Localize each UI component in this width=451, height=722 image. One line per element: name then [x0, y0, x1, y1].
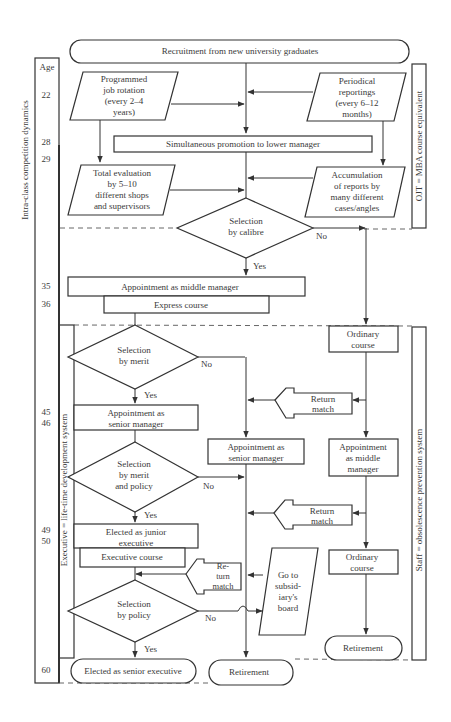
svg-text:years): years) — [113, 107, 135, 117]
svg-text:subsid-: subsid- — [275, 581, 301, 591]
svg-text:manager: manager — [348, 464, 379, 474]
return-match-2-node: Return match — [274, 500, 352, 529]
staff-band: Staff = obsolescence prevention system — [412, 327, 426, 660]
svg-text:Yes: Yes — [144, 644, 158, 654]
svg-text:No: No — [201, 359, 212, 369]
svg-text:Elected as senior executive: Elected as senior executive — [84, 666, 182, 676]
svg-text:Selection: Selection — [117, 599, 151, 609]
svg-text:cases/angles: cases/angles — [335, 203, 380, 213]
elected-senior-node: Elected as senior executive — [71, 659, 196, 683]
no-label: No — [316, 231, 327, 241]
svg-text:match: match — [311, 516, 333, 526]
svg-text:Yes: Yes — [144, 510, 158, 520]
svg-text:by merit: by merit — [119, 356, 150, 366]
svg-text:Recruitment from new universit: Recruitment from new university graduate… — [162, 46, 319, 56]
svg-text:Retirement: Retirement — [229, 667, 269, 677]
intra-class-competition-label: Intra-class competition dynamics — [20, 100, 30, 220]
staff-label: Staff = obsolescence prevention system — [414, 429, 424, 571]
svg-text:job rotation: job rotation — [102, 85, 145, 95]
svg-text:by calibre: by calibre — [228, 227, 264, 237]
svg-text:reportings: reportings — [339, 87, 376, 97]
svg-text:and policy: and policy — [115, 481, 153, 491]
svg-text:of reports by: of reports by — [334, 181, 380, 191]
svg-text:turn: turn — [216, 571, 230, 581]
age-46: 46 — [42, 418, 52, 428]
appointment-middle-manager-node: Appointment as middle manager — [68, 277, 305, 296]
svg-text:Selection: Selection — [117, 345, 151, 355]
svg-text:senior manager: senior manager — [108, 419, 163, 429]
svg-text:many different: many different — [330, 192, 384, 202]
recruitment-node: Recruitment from new university graduate… — [70, 40, 409, 63]
ojt-band: OJT = MBA course equivalent — [412, 64, 426, 228]
executive-course-node: Executive course — [80, 548, 185, 567]
age-49: 49 — [42, 525, 52, 535]
age-header: Age — [40, 62, 55, 72]
ordinary-course-2-node: Ordinary course — [329, 550, 398, 574]
periodical-reportings-node: Periodical reportings (every 6–12 months… — [307, 73, 406, 121]
svg-text:Appointment as middle manager: Appointment as middle manager — [121, 282, 239, 292]
total-evaluation-node: Total evaluation by 5–10 different shops… — [68, 165, 175, 215]
appointment-middle-right-node: Appointment as middle manager — [329, 439, 398, 476]
svg-text:Ordinary: Ordinary — [346, 552, 379, 562]
svg-text:Appointment as: Appointment as — [227, 442, 285, 452]
svg-text:months): months) — [342, 109, 372, 119]
selection-calibre-decision: Selection by calibre — [177, 198, 313, 258]
svg-text:iary's: iary's — [278, 592, 298, 602]
career-flowchart: Age 22 28 29 35 36 45 46 49 50 60 Intra-… — [0, 0, 451, 722]
svg-text:executive: executive — [119, 538, 153, 548]
svg-text:as middle: as middle — [346, 453, 381, 463]
executive-band: Executive = life-time development system — [59, 145, 74, 683]
subsidiary-board-node: Go to subsid- iary's board — [259, 548, 318, 635]
svg-text:Return: Return — [311, 394, 336, 404]
svg-text:Return: Return — [310, 506, 335, 516]
age-35: 35 — [42, 281, 52, 291]
svg-text:(every 6–12: (every 6–12 — [335, 98, 378, 108]
svg-text:and supervisors: and supervisors — [94, 201, 151, 211]
selection-policy-decision: Selection by policy — [68, 580, 198, 642]
age-50: 50 — [42, 536, 52, 546]
simultaneous-promotion-node: Simultaneous promotion to lower manager — [114, 136, 372, 152]
svg-text:by merit: by merit — [119, 470, 150, 480]
ojt-label: OJT = MBA course equivalent — [414, 90, 424, 201]
age-22: 22 — [42, 90, 51, 100]
svg-text:match: match — [213, 581, 235, 591]
express-course-node: Express course — [104, 296, 269, 313]
return-match-3-node: Re- turn match — [186, 559, 241, 594]
retirement-right-node: Retirement — [325, 636, 402, 660]
age-column: Age 22 28 29 35 36 45 46 49 50 60 — [35, 58, 59, 683]
age-45: 45 — [42, 407, 52, 417]
svg-text:Simultaneous promotion to lowe: Simultaneous promotion to lower manager — [166, 139, 320, 149]
svg-text:Re-: Re- — [217, 561, 229, 571]
svg-text:Total evaluation: Total evaluation — [93, 168, 152, 178]
accumulation-node: Accumulation of reports by many differen… — [305, 167, 405, 217]
appointment-senior-left-node: Appointment as senior manager — [74, 405, 198, 430]
svg-text:Programmed: Programmed — [101, 74, 148, 84]
svg-text:Appointment as: Appointment as — [107, 408, 165, 418]
svg-text:Selection: Selection — [117, 459, 151, 469]
svg-text:by 5–10: by 5–10 — [107, 179, 137, 189]
age-36: 36 — [42, 299, 52, 309]
svg-text:No: No — [205, 613, 216, 623]
age-60: 60 — [42, 665, 52, 675]
retirement-mid-node: Retirement — [209, 660, 293, 685]
svg-text:senior manager: senior manager — [228, 453, 283, 463]
svg-text:different shops: different shops — [95, 190, 149, 200]
svg-text:Go to: Go to — [278, 570, 299, 580]
svg-text:Elected as junior: Elected as junior — [106, 527, 166, 537]
svg-text:course: course — [350, 563, 374, 573]
svg-text:by policy: by policy — [117, 610, 151, 620]
svg-text:Express course: Express course — [154, 300, 208, 310]
selection-merit-policy-decision: Selection by merit and policy — [68, 442, 198, 512]
svg-text:Executive course: Executive course — [101, 552, 163, 562]
job-rotation-node: Programmed job rotation (every 2–4 years… — [70, 72, 178, 120]
selection-merit-decision: Selection by merit — [68, 325, 198, 389]
svg-text:Appointment: Appointment — [339, 442, 387, 452]
svg-text:course: course — [351, 340, 375, 350]
svg-text:(every 2–4: (every 2–4 — [105, 96, 144, 106]
ordinary-course-1-node: Ordinary course — [329, 326, 398, 352]
svg-text:match: match — [312, 404, 334, 414]
svg-text:Ordinary: Ordinary — [347, 329, 380, 339]
svg-text:Selection: Selection — [229, 216, 263, 226]
svg-text:board: board — [278, 603, 299, 613]
elected-junior-node: Elected as junior executive — [74, 524, 198, 548]
